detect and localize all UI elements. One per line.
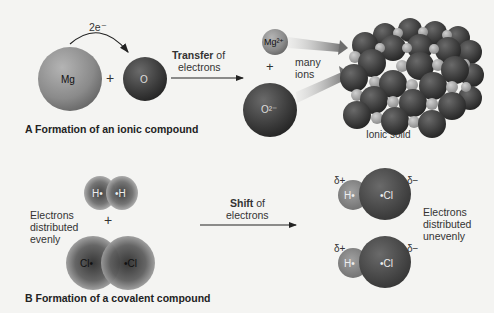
transfer-of: of bbox=[213, 49, 225, 61]
delta-minus-2: δ− bbox=[407, 243, 418, 255]
hcl2-h-label: H• bbox=[344, 258, 355, 269]
mg-ion-label: Mg²⁺ bbox=[264, 37, 285, 47]
o-ion-label: O²⁻ bbox=[261, 104, 277, 115]
caption-b: B Formation of a covalent compound bbox=[25, 292, 211, 304]
delta-minus-1: δ− bbox=[407, 175, 418, 187]
o-atom-label: O bbox=[140, 74, 148, 85]
unevenly-line2: distributed bbox=[423, 218, 471, 230]
electron-label: 2e⁻ bbox=[89, 21, 107, 33]
shift-of: of bbox=[253, 197, 265, 209]
transfer-label-line1: Transfer of bbox=[172, 49, 225, 61]
unevenly-line3: unevenly bbox=[423, 230, 465, 242]
plus-sign-a: + bbox=[106, 72, 114, 84]
shift-label-line1: Shift of bbox=[230, 197, 265, 209]
transfer-label-line2: electrons bbox=[178, 61, 221, 73]
evenly-line1: Electrons bbox=[30, 209, 74, 221]
plus-sign-b: + bbox=[104, 214, 112, 226]
evenly-line2: distributed bbox=[30, 221, 78, 233]
cl2-right-label: •Cl bbox=[124, 258, 137, 269]
delta-plus-1: δ+ bbox=[334, 175, 345, 187]
unevenly-line1: Electrons bbox=[423, 206, 467, 218]
many-ions-line1: many bbox=[295, 56, 321, 68]
h2-right-label: •H bbox=[115, 188, 126, 199]
hcl1-h-label: H• bbox=[344, 190, 355, 201]
mg-atom-label: Mg bbox=[61, 74, 75, 85]
plus-sign-ions: + bbox=[266, 61, 274, 73]
transfer-bold: Transfer bbox=[172, 49, 213, 61]
many-ions-line2: ions bbox=[295, 68, 314, 80]
ionic-solid-lattice bbox=[340, 18, 484, 138]
hcl2-cl-label: •Cl bbox=[380, 258, 393, 269]
cl2-left-label: Cl• bbox=[80, 258, 93, 269]
diagram-graphics bbox=[0, 0, 494, 313]
caption-a: A Formation of an ionic compound bbox=[25, 123, 198, 135]
ionic-solid-label: Ionic solid bbox=[366, 129, 410, 141]
delta-plus-2: δ+ bbox=[334, 243, 345, 255]
h2-left-label: H• bbox=[92, 188, 103, 199]
shift-bold: Shift bbox=[230, 197, 253, 209]
evenly-line3: evenly bbox=[30, 233, 60, 245]
beam-arrow-mg bbox=[288, 37, 340, 52]
shift-label-line2: electrons bbox=[226, 209, 269, 221]
hcl1-cl-label: •Cl bbox=[380, 190, 393, 201]
